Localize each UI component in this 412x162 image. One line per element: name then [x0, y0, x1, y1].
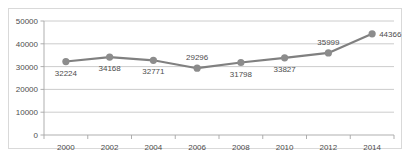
- x-axis-tick-label: 2004: [144, 143, 162, 152]
- data-point-label: 31798: [230, 70, 253, 79]
- y-axis-tick-label: 30000: [16, 63, 39, 72]
- data-point-marker: [237, 59, 244, 66]
- data-point-label: 34168: [99, 64, 122, 73]
- x-axis-tick-label: 2000: [57, 143, 75, 152]
- y-axis-tick-label: 20000: [16, 85, 39, 94]
- data-point-label: 35999: [317, 38, 340, 47]
- data-point-label: 44366: [379, 30, 402, 39]
- gridlines: [44, 21, 394, 112]
- data-point-label: 32771: [142, 67, 165, 76]
- x-axis-tick-label: 2002: [101, 143, 119, 152]
- y-axis-tick-labels: 01000020000300004000050000: [16, 17, 39, 140]
- line-chart: 01000020000300004000050000 2000200220042…: [0, 0, 412, 162]
- data-point-labels: 3222434168327712929631798338273599944366: [55, 30, 402, 79]
- y-tick-marks: [41, 21, 45, 135]
- data-point-marker: [106, 54, 113, 61]
- x-axis-tick-label: 2014: [363, 143, 381, 152]
- data-point-marker: [62, 58, 69, 65]
- x-tick-marks: [44, 135, 394, 139]
- data-point-marker: [281, 54, 288, 61]
- data-point-marker: [325, 49, 332, 56]
- data-point-label: 32224: [55, 69, 78, 78]
- x-axis-tick-label: 2006: [188, 143, 206, 152]
- x-axis-tick-label: 2012: [319, 143, 337, 152]
- y-axis-tick-label: 50000: [16, 17, 39, 26]
- y-axis-tick-label: 0: [34, 131, 39, 140]
- data-point-marker: [150, 57, 157, 64]
- data-point-marker: [369, 30, 376, 37]
- data-point-label: 29296: [186, 53, 209, 62]
- data-point-label: 33827: [274, 65, 297, 74]
- x-axis-tick-label: 2010: [276, 143, 294, 152]
- x-axis-tick-labels: 20002002200420062008201020122014: [57, 143, 382, 152]
- y-axis-tick-label: 40000: [16, 40, 39, 49]
- chart-container: 01000020000300004000050000 2000200220042…: [0, 0, 412, 162]
- y-axis-tick-label: 10000: [16, 108, 39, 117]
- x-axis-tick-label: 2008: [232, 143, 250, 152]
- data-point-marker: [194, 65, 201, 72]
